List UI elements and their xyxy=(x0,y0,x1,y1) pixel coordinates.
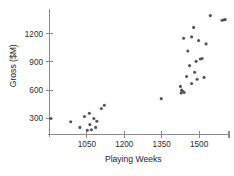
data-point xyxy=(49,117,52,120)
y-tick-label: 1200 xyxy=(25,30,44,39)
data-point xyxy=(100,107,103,110)
data-point xyxy=(190,82,193,85)
data-point xyxy=(182,37,185,40)
data-point xyxy=(195,60,198,63)
plot-canvas: 3006009001200 1050120013501500 Playing W… xyxy=(0,0,234,176)
x-tick-label: 1200 xyxy=(115,140,134,149)
y-axis-title: Gross ($M) xyxy=(8,44,18,87)
data-point xyxy=(197,39,200,42)
data-point xyxy=(209,14,212,17)
y-tick-label: 900 xyxy=(29,58,43,67)
data-point xyxy=(185,75,188,78)
data-point xyxy=(224,18,227,21)
x-tick-label: 1050 xyxy=(78,140,97,149)
data-point xyxy=(78,126,81,129)
data-point xyxy=(103,104,106,107)
x-tick-label: 1500 xyxy=(190,140,209,149)
data-point xyxy=(94,126,97,129)
data-point xyxy=(92,117,95,120)
y-axis: 3006009001200 xyxy=(25,9,53,137)
x-axis-title: Playing Weeks xyxy=(105,154,162,164)
data-point xyxy=(203,76,206,79)
data-point xyxy=(186,49,189,52)
data-point xyxy=(160,97,163,100)
data-point xyxy=(193,71,196,74)
data-point xyxy=(86,129,89,132)
data-point xyxy=(192,26,195,29)
x-axis: 1050120013501500 xyxy=(48,131,230,149)
data-point xyxy=(188,64,191,67)
x-tick-label: 1350 xyxy=(153,140,172,149)
data-point xyxy=(88,123,91,126)
scatter-plot-figure: 3006009001200 1050120013501500 Playing W… xyxy=(0,0,234,176)
y-tick-label: 300 xyxy=(29,114,43,123)
data-point xyxy=(201,57,204,60)
data-point xyxy=(90,128,93,131)
data-point xyxy=(196,78,199,81)
data-point xyxy=(179,85,182,88)
data-point xyxy=(69,120,72,123)
y-tick-label: 600 xyxy=(29,86,43,95)
data-point xyxy=(95,120,98,123)
data-point xyxy=(190,35,193,38)
data-point xyxy=(83,115,86,118)
data-point xyxy=(88,112,91,115)
data-point xyxy=(183,91,186,94)
data-point xyxy=(205,42,208,45)
data-points-layer xyxy=(49,14,227,132)
